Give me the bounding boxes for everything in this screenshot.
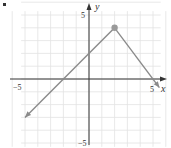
x-axis-label: x xyxy=(160,83,166,94)
y-tick-min: −5 xyxy=(78,139,87,148)
y-axis-arrow-icon xyxy=(87,3,92,10)
x-tick-min: −5 xyxy=(13,83,22,92)
y-axis xyxy=(87,3,92,145)
x-tick-max: 5 xyxy=(150,85,154,94)
y-axis-label: y xyxy=(94,1,100,12)
vertex-dot-icon xyxy=(111,25,117,31)
ray-line xyxy=(25,28,115,118)
series-lines xyxy=(25,25,159,118)
y-tick-max: 5 xyxy=(81,11,85,20)
graph: y x −5 5 5 −5 xyxy=(0,0,171,148)
